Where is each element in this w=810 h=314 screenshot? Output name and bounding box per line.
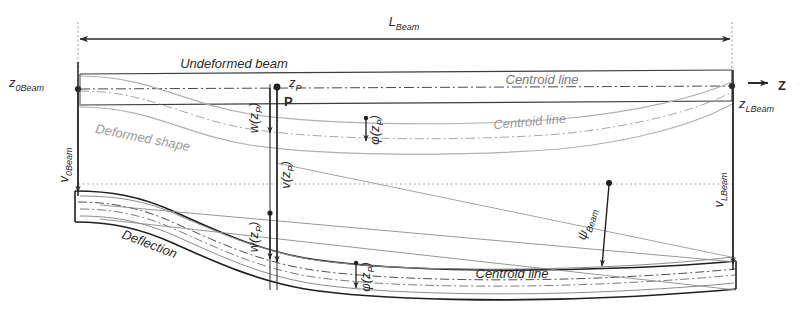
z0beam-origin-dot — [75, 86, 81, 92]
z-axis-label: Z — [778, 78, 786, 93]
centroid-line-label-3: Centroid line — [476, 266, 549, 281]
undeformed-beam-label: Undeformed beam — [180, 56, 288, 71]
diagram-canvas: LBeam — [0, 0, 810, 314]
zlbeam-origin-dot — [729, 83, 735, 89]
point-p-label: P — [284, 94, 293, 109]
centroid-line-label-1: Centroid line — [506, 72, 579, 87]
beam-deflection-svg: LBeam — [0, 0, 810, 314]
point-p-dot — [274, 84, 281, 91]
